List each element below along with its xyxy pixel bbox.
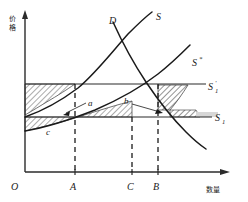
- svg-text:1: 1: [215, 87, 218, 94]
- figure-canvas: 价 格 数量 O A C B D S S * S 1 ' S 1 a b c: [0, 0, 248, 202]
- curve-label-D: D: [108, 15, 117, 26]
- svg-text:S: S: [215, 112, 220, 123]
- region-label-c: c: [46, 127, 50, 137]
- svg-text:1: 1: [222, 118, 225, 125]
- svg-text:S: S: [208, 81, 213, 92]
- y-axis-label-char1: 价: [9, 15, 16, 23]
- tick-label-O: O: [11, 181, 18, 192]
- x-axis-label: 数量: [206, 185, 220, 194]
- region-label-a: a: [88, 98, 93, 108]
- curve-label-S: S: [156, 11, 161, 22]
- region-label-b: b: [124, 96, 129, 106]
- tick-label-A: A: [69, 181, 77, 192]
- y-axis-label-char2: 格: [9, 23, 16, 32]
- tick-label-C: C: [127, 181, 134, 192]
- supply-demand-chart: 价 格 数量 O A C B D S S * S 1 ' S 1 a b c: [0, 0, 248, 202]
- svg-text:S: S: [192, 57, 197, 68]
- tick-label-B: B: [153, 181, 159, 192]
